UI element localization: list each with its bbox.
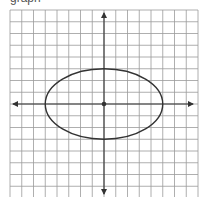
- center-point: [102, 102, 107, 107]
- down-arrow-icon: [101, 189, 107, 195]
- coordinate-grid: [0, 0, 203, 197]
- left-arrow-icon: [12, 101, 18, 107]
- right-arrow-icon: [188, 101, 194, 107]
- up-arrow-icon: [101, 12, 107, 18]
